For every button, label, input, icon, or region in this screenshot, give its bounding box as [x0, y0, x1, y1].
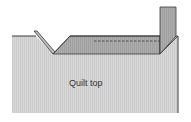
- binding-strip: [53, 36, 160, 54]
- quilt-top-label: Quilt top: [69, 78, 103, 88]
- binding-diagram: Quilt top: [0, 0, 191, 122]
